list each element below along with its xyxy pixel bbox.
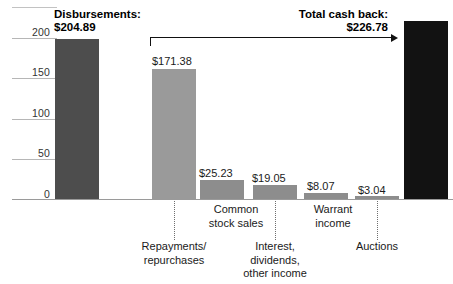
bar-value-common-stock-sales: $25.23 [199,167,233,179]
callout-total-cash-back-line1: Total cash back: [299,8,388,20]
category-label-interest-line1: Interest, [221,240,329,254]
axis-baseline [12,199,453,200]
callout-disbursements-line2: $204.89 [54,21,141,34]
arrow-line [150,37,392,38]
ytick-label-50: 50 [8,148,50,159]
bar-interest-dividends-other-income [253,185,297,199]
category-label-common-stock-sales-line1: Common [186,203,286,217]
category-label-auctions: Auctions [339,240,415,254]
bar-total-cash-back [404,21,448,199]
category-label-common-stock-sales: Common stock sales [186,203,286,230]
ytick-label-200: 200 [8,27,50,38]
category-label-interest-line2: dividends, [221,254,329,268]
callout-disbursements-line1: Disbursements: [54,8,141,20]
bar-common-stock-sales [200,180,244,199]
bar-warrant-income [304,193,348,199]
category-label-interest-line3: other income [221,267,329,281]
leader-line-repayments [174,201,175,240]
category-label-repayments: Repayments/ repurchases [117,240,231,267]
arrow-head-icon [391,34,398,42]
bar-auctions [355,196,399,199]
bar-disbursements [55,39,99,199]
gridline-100 [12,119,57,120]
category-label-warrant-income-line2: income [288,217,378,231]
category-label-auctions-line1: Auctions [339,240,415,254]
callout-total-cash-back: Total cash back: $226.78 [255,8,388,34]
bar-value-interest: $19.05 [252,172,286,184]
category-label-warrant-income: Warrant income [288,203,378,230]
gridline-200 [12,38,57,39]
bar-value-auctions: $3.04 [358,184,386,196]
gridline-150 [12,78,57,79]
ytick-label-100: 100 [8,108,50,119]
axis-top-stub-line [12,7,57,8]
bar-chart: 200 150 100 50 0 Disbursements: $204.89 … [0,0,453,284]
bar-value-warrant-income: $8.07 [307,180,335,192]
bar-value-repayments: $171.38 [152,55,192,67]
callout-total-cash-back-line2: $226.78 [255,21,388,34]
category-label-interest: Interest, dividends, other income [221,240,329,281]
category-label-repayments-line1: Repayments/ [117,240,231,254]
category-label-common-stock-sales-line2: stock sales [186,217,286,231]
arrow-start-stub [150,37,151,46]
ytick-label-150: 150 [8,67,50,78]
gridline-50 [12,159,57,160]
category-label-warrant-income-line1: Warrant [288,203,378,217]
bar-repayments [152,69,196,199]
category-label-repayments-line2: repurchases [117,254,231,268]
callout-disbursements: Disbursements: $204.89 [54,8,141,34]
